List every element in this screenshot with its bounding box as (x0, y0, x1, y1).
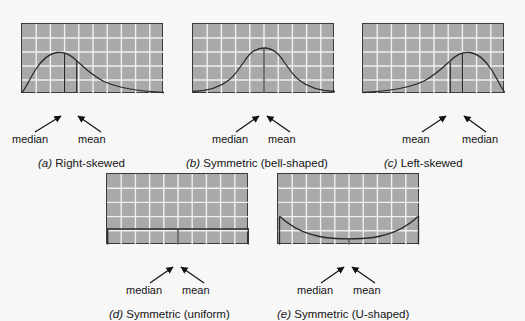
panel-e: median mean (e) Symmetric (U-shaped) (277, 173, 419, 244)
panel-c-title: Left-skewed (401, 157, 463, 169)
panel-a-letter: (a) (38, 157, 52, 169)
panel-d-caption: (d) Symmetric (uniform) (109, 308, 230, 321)
panel-e-plot (277, 173, 419, 244)
panel-d-arrows (106, 244, 248, 284)
panel-e-arrows (277, 244, 419, 284)
panel-b-letter: (b) (186, 157, 200, 169)
panel-b-mean-label: mean (268, 133, 296, 145)
panel-b: median mean (b) Symmetric (bell-shaped) (192, 23, 334, 93)
panel-d-title: Symmetric (uniform) (126, 308, 230, 320)
grid-lines (278, 174, 420, 245)
panel-e-caption: (e) Symmetric (U-shaped) (277, 308, 409, 321)
panel-e-title: Symmetric (U-shaped) (294, 308, 409, 320)
panel-d-chart (107, 174, 249, 245)
panel-c-caption: (c) Left-skewed (384, 157, 463, 170)
panel-b-arrows (192, 93, 334, 133)
panel-c-mean-label: mean (402, 133, 430, 145)
panel-c-letter: (c) (384, 157, 397, 169)
panel-e-mean-label: mean (353, 284, 381, 296)
panel-d-median-label: median (126, 284, 162, 296)
panel-c-plot (362, 23, 504, 93)
panel-a-caption: (a) Right-skewed (38, 157, 125, 170)
panel-d-plot (106, 173, 248, 244)
panel-d-letter: (d) (109, 308, 123, 320)
panel-e-letter: (e) (277, 308, 291, 320)
panel-a-title: Right-skewed (55, 157, 125, 169)
panel-b-chart (193, 24, 335, 94)
panel-b-caption: (b) Symmetric (bell-shaped) (186, 157, 328, 170)
grid-lines (363, 24, 505, 94)
panel-e-chart (278, 174, 420, 245)
panel-e-median-label: median (297, 284, 333, 296)
panel-d: median mean (d) Symmetric (uniform) (106, 173, 248, 244)
panel-a: median mean (a) Right-skewed (21, 23, 163, 93)
panel-a-arrows (21, 93, 163, 133)
panel-a-plot (21, 23, 163, 93)
panel-b-plot (192, 23, 334, 93)
panel-a-median-label: median (12, 133, 48, 145)
panel-c-chart (363, 24, 505, 94)
panel-b-median-label: median (212, 133, 248, 145)
panel-c: mean median (c) Left-skewed (362, 23, 504, 93)
panel-b-title: Symmetric (bell-shaped) (203, 157, 328, 169)
panel-d-mean-label: mean (182, 284, 210, 296)
panel-a-mean-label: mean (78, 133, 106, 145)
panel-c-arrows (362, 93, 504, 133)
grid-lines (22, 24, 164, 94)
panel-c-median-label: median (462, 133, 498, 145)
panel-a-chart (22, 24, 164, 94)
